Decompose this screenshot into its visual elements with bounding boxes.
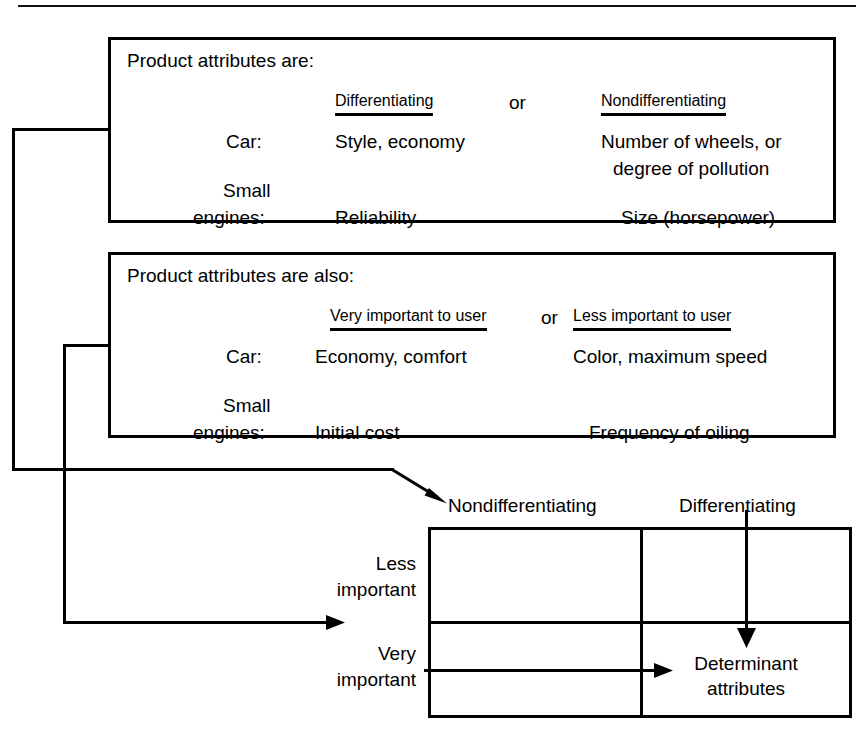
column-header-less-important: Less important to user [573, 307, 731, 331]
matrix-row-header-less-important: Less important [266, 551, 416, 602]
figure-canvas: Product attributes are: Differentiating … [0, 0, 865, 747]
box-lead-text: Product attributes are: [127, 50, 314, 72]
cell-engines-very-important: Initial cost [315, 422, 399, 444]
top-divider-rule [18, 5, 856, 7]
attribute-box-importance: Product attributes are also: Very import… [108, 252, 836, 438]
column-header-differentiating: Differentiating [335, 92, 433, 116]
row-header-line2: important [266, 667, 416, 693]
cell-car-nondifferentiating: Number of wheels, or [601, 131, 782, 153]
cell-car-less-important: Color, maximum speed [573, 346, 767, 368]
cell-engines-differentiating: Reliability [335, 207, 416, 229]
cell-engines-nondifferentiating: Size (horsepower) [621, 207, 775, 229]
row-header-line1: Very [266, 641, 416, 667]
determinant-label-line2: attributes [661, 677, 831, 702]
cell-engines-less-important: Frequency of oiling [589, 422, 750, 444]
matrix-row-divider [428, 621, 852, 624]
cell-car-differentiating: Style, economy [335, 131, 465, 153]
connector-box2-stub [63, 344, 108, 347]
cell-car-very-important: Economy, comfort [315, 346, 467, 368]
row-header-line1: Less [266, 551, 416, 577]
matrix-row-header-very-important: Very important [266, 641, 416, 692]
cell-car-nondifferentiating-line2: degree of pollution [613, 158, 769, 180]
row-label-car: Car: [226, 346, 262, 368]
connector-box2-across [63, 621, 333, 624]
determinant-attributes-label: Determinant attributes [661, 652, 831, 701]
conjunction-or: or [541, 307, 558, 329]
row-header-line2: important [266, 577, 416, 603]
matrix-column-header-nondifferentiating: Nondifferentiating [448, 495, 597, 517]
row-label-small: Small [223, 180, 271, 202]
connector-box1-across [12, 468, 394, 471]
row-label-small: Small [223, 395, 271, 417]
connector-box2-down [63, 344, 66, 624]
row-label-engines: engines: [193, 422, 265, 444]
conjunction-or: or [509, 92, 526, 114]
row-label-engines: engines: [193, 207, 265, 229]
matrix-column-header-differentiating: Differentiating [679, 495, 796, 517]
box-lead-text: Product attributes are also: [127, 265, 354, 287]
determinant-label-line1: Determinant [661, 652, 831, 677]
row-label-car: Car: [226, 131, 262, 153]
connector-box1-stub [12, 128, 108, 131]
attribute-box-differentiating: Product attributes are: Differentiating … [108, 37, 836, 223]
connector-box1-down [12, 128, 15, 471]
column-header-very-important: Very important to user [330, 307, 487, 331]
column-header-nondifferentiating: Nondifferentiating [601, 92, 726, 116]
